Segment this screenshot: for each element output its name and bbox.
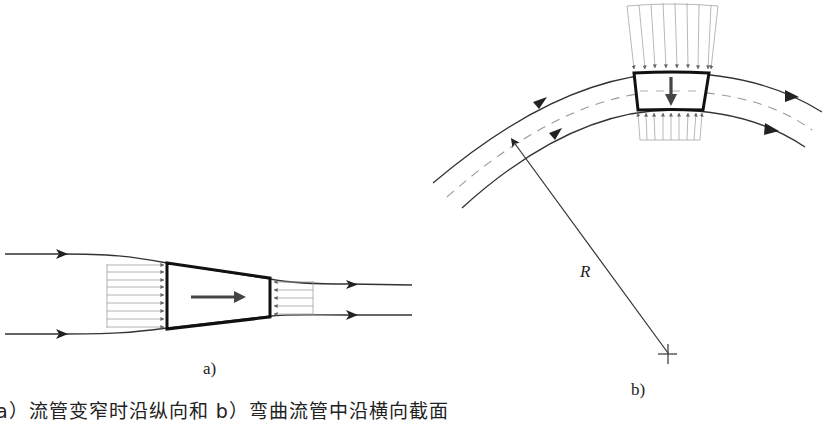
panel-a: a) bbox=[5, 249, 412, 378]
upstream-velocity-profile bbox=[107, 264, 164, 328]
downstream-velocity-profile bbox=[274, 281, 313, 316]
radius-label: R bbox=[579, 262, 591, 281]
inner-pressure-profile bbox=[638, 113, 702, 140]
flow-arrow-icon bbox=[785, 90, 799, 102]
radius-line bbox=[513, 141, 668, 353]
streamline-outer bbox=[433, 73, 822, 183]
panel-b-label: b) bbox=[631, 380, 645, 399]
figure-caption: a）流管变窄时沿纵向和 b）弯曲流管中沿横向截面 bbox=[0, 396, 449, 423]
panel-b: R b) bbox=[433, 3, 822, 399]
flow-arrow-icon bbox=[764, 123, 779, 135]
outer-pressure-profile bbox=[627, 3, 718, 69]
centerline-dashed bbox=[447, 91, 812, 197]
panel-a-label: a) bbox=[203, 359, 216, 378]
center-of-curvature-icon bbox=[658, 344, 677, 364]
